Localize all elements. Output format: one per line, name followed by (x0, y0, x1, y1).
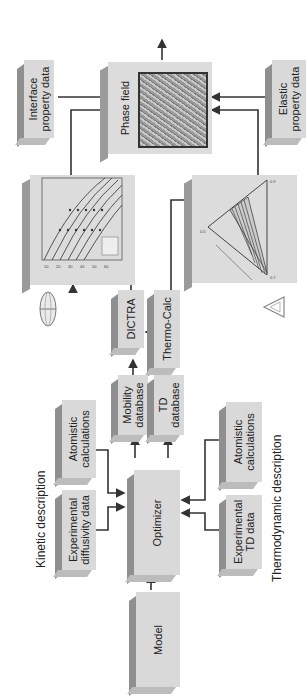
atomistic-calculations-kinetic-box: Atomistic calculations (62, 400, 96, 478)
svg-text:40: 40 (80, 264, 85, 269)
dictra-logo-icon (38, 290, 58, 328)
microstructure-image (138, 72, 208, 148)
mobility-database-box: Mobility database (118, 375, 148, 435)
experimental-td-label: Experimental TD data (232, 500, 256, 564)
svg-text:0.0: 0.0 (200, 229, 206, 234)
thermocalc-logo-icon (262, 295, 286, 319)
thermodynamic-description-label: Thermodynamic description (270, 435, 284, 582)
td-database-label: TD database (157, 382, 181, 427)
phase-diagram-chart: 0.00.90.7 (192, 175, 297, 283)
elastic-property-data-box: Elastic property data (272, 60, 306, 138)
kinetic-description-label: Kinetic description (34, 471, 48, 568)
interface-property-data-box: Interface property data (24, 60, 54, 138)
experimental-diffusivity-label: Experimental diffusivity data (67, 495, 91, 565)
model-box: Model (136, 592, 180, 687)
mobility-database-label: Mobility database (121, 382, 145, 427)
svg-text:20: 20 (56, 264, 61, 269)
diffusion-plot-panel: 102030 405060 (30, 175, 135, 285)
dictra-label: DICTRA (125, 299, 137, 340)
experimental-diffusivity-box: Experimental diffusivity data (62, 490, 96, 570)
svg-text:60: 60 (104, 264, 109, 269)
svg-text:0.7: 0.7 (270, 275, 276, 280)
optimizer-label: Optimizer (151, 499, 163, 546)
atomistic-calculations-kinetic-label: Atomistic calculations (67, 410, 91, 467)
thermo-calc-label: Thermo-Calc (161, 297, 173, 361)
optimizer-box: Optimizer (134, 470, 180, 575)
phase-field-box: Phase field (108, 62, 212, 154)
model-label: Model (152, 625, 164, 655)
dictra-box: DICTRA (118, 290, 144, 348)
svg-text:0.9: 0.9 (270, 179, 276, 184)
atomistic-calculations-td-box: Atomistic calculations (226, 402, 262, 482)
interface-property-data-label: Interface property data (27, 67, 51, 132)
elastic-property-data-label: Elastic property data (277, 67, 301, 132)
svg-text:10: 10 (44, 264, 49, 269)
thermo-calc-box: Thermo-Calc (154, 290, 180, 368)
atomistic-calculations-td-label: Atomistic calculations (232, 413, 256, 470)
td-database-box: TD database (154, 375, 184, 435)
diffusion-curves-chart: 102030 405060 (30, 175, 135, 285)
svg-text:50: 50 (92, 264, 97, 269)
phase-diagram-panel: 0.00.90.7 (192, 175, 297, 283)
experimental-td-box: Experimental TD data (226, 495, 262, 569)
svg-text:30: 30 (68, 264, 73, 269)
phase-field-label: Phase field (119, 81, 131, 135)
